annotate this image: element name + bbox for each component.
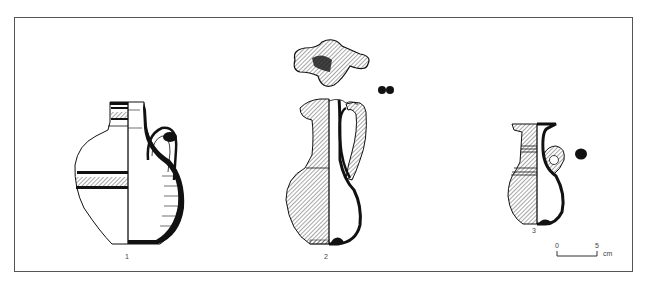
figure-plate: 1 2 3 0 5 cm bbox=[0, 0, 647, 283]
vessel-2-top-view bbox=[294, 40, 369, 87]
handle-section-1 bbox=[163, 132, 177, 142]
vessel-2 bbox=[286, 99, 366, 244]
scale-unit-label: cm bbox=[603, 250, 612, 257]
handle-section-2 bbox=[378, 86, 394, 94]
vessel-1 bbox=[75, 102, 184, 244]
vessel-label-2: 2 bbox=[324, 253, 328, 260]
scale-start-label: 0 bbox=[555, 242, 559, 249]
vessel-3 bbox=[508, 124, 587, 224]
scale-end-label: 5 bbox=[595, 242, 599, 249]
pottery-drawings bbox=[0, 0, 647, 283]
handle-section-3 bbox=[575, 149, 587, 160]
vessel-label-1: 1 bbox=[125, 253, 129, 260]
vessel-label-3: 3 bbox=[532, 227, 536, 234]
scale-bar bbox=[557, 251, 597, 256]
